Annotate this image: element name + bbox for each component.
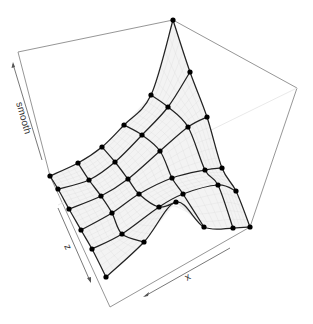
mesh-node	[66, 206, 71, 211]
x-axis-arrowhead	[143, 292, 149, 297]
mesh-node	[187, 69, 192, 74]
axis-smooth: smooth	[12, 62, 43, 160]
mesh-node	[185, 124, 190, 129]
mesh-node	[139, 132, 144, 137]
mesh-node	[86, 177, 91, 182]
mesh-node	[170, 17, 175, 22]
mesh-node	[202, 167, 207, 172]
mesh-node	[173, 199, 178, 204]
smooth-axis-label: smooth	[14, 101, 34, 136]
smooth-axis-arrowhead	[12, 62, 16, 68]
mesh-node	[247, 224, 252, 229]
mesh-node	[103, 274, 108, 279]
mesh-node	[219, 165, 224, 170]
mesh-node	[99, 144, 104, 149]
mesh-node	[156, 204, 161, 209]
mesh-node	[230, 225, 235, 230]
mesh-node	[119, 231, 124, 236]
mesh-node	[121, 122, 126, 127]
mesh-node	[98, 193, 103, 198]
mesh-node	[109, 210, 114, 215]
mesh-node	[148, 92, 153, 97]
surface-fill	[50, 20, 250, 277]
surface-plot: smooth z x	[0, 0, 313, 324]
mesh-node	[169, 175, 174, 180]
mesh-node	[165, 104, 170, 109]
mesh-node	[125, 176, 130, 181]
mesh-node	[112, 159, 117, 164]
mesh-node	[55, 186, 60, 191]
mesh-node	[75, 160, 80, 165]
surface	[47, 17, 252, 279]
z-axis-arrowhead	[87, 277, 91, 283]
mesh-node	[136, 191, 141, 196]
mesh-node	[157, 148, 162, 153]
mesh-node	[215, 182, 220, 187]
z-axis-label: z	[62, 242, 74, 251]
axis-x: x	[143, 248, 230, 297]
mesh-node	[47, 173, 52, 178]
x-axis-label: x	[183, 271, 193, 283]
mesh-node	[201, 224, 206, 229]
mesh-node	[141, 239, 146, 244]
mesh-node	[233, 188, 238, 193]
mesh-node	[204, 114, 209, 119]
mesh-node	[89, 246, 94, 251]
mesh-node	[180, 191, 185, 196]
mesh-node	[78, 227, 83, 232]
